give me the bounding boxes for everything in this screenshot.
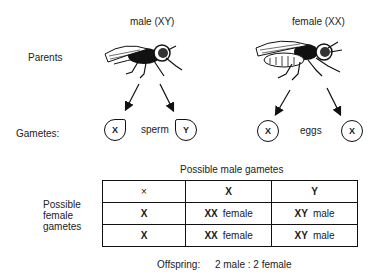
male-gamete-header-y: Y bbox=[272, 181, 358, 203]
sperm-x-gamete: X bbox=[104, 119, 126, 141]
female-gametes-title-line-3: gametes bbox=[43, 221, 81, 232]
female-gamete-row-label: X bbox=[103, 203, 186, 225]
female-gametes-title-line-2: female bbox=[43, 210, 81, 221]
sperm-y-gamete: Y bbox=[175, 119, 197, 141]
punnett-cell: XXfemale bbox=[186, 225, 272, 247]
sex: female bbox=[223, 208, 253, 219]
punnett-header-row: × X Y bbox=[103, 181, 358, 203]
sex: female bbox=[223, 230, 253, 241]
female-gametes-title: Possible female gametes bbox=[43, 199, 81, 232]
punnett-corner: × bbox=[103, 181, 186, 203]
genotype: XX bbox=[204, 208, 217, 219]
sex: male bbox=[313, 208, 335, 219]
punnett-square: × X Y X XXfemale XYmale X XXfemale XYmal… bbox=[102, 180, 358, 247]
sperm-x-label: X bbox=[112, 125, 118, 135]
egg-x-gamete-2: X bbox=[341, 120, 363, 142]
genotype: XX bbox=[204, 230, 217, 241]
female-gamete-row-label: X bbox=[103, 225, 186, 247]
sperm-y-label: Y bbox=[183, 125, 189, 135]
punnett-cell: XYmale bbox=[272, 203, 358, 225]
punnett-row: X XXfemale XYmale bbox=[103, 203, 358, 225]
offspring-label: Offspring: bbox=[157, 259, 200, 270]
offspring-ratio: 2 male : 2 female bbox=[215, 259, 292, 270]
punnett-cell: XYmale bbox=[272, 225, 358, 247]
female-gametes-title-line-1: Possible bbox=[43, 199, 81, 210]
egg-x-gamete-1: X bbox=[257, 120, 279, 142]
egg-x-label-1: X bbox=[265, 126, 271, 136]
sperm-label: sperm bbox=[141, 124, 169, 135]
eggs-label: eggs bbox=[300, 125, 322, 136]
male-gamete-header-x: X bbox=[186, 181, 272, 203]
sex: male bbox=[313, 230, 335, 241]
genotype: XY bbox=[295, 230, 308, 241]
offspring-line: Offspring: 2 male : 2 female bbox=[157, 259, 292, 270]
punnett-row: X XXfemale XYmale bbox=[103, 225, 358, 247]
egg-x-label-2: X bbox=[349, 126, 355, 136]
male-gametes-title: Possible male gametes bbox=[180, 164, 283, 175]
genotype: XY bbox=[295, 208, 308, 219]
punnett-cell: XXfemale bbox=[186, 203, 272, 225]
